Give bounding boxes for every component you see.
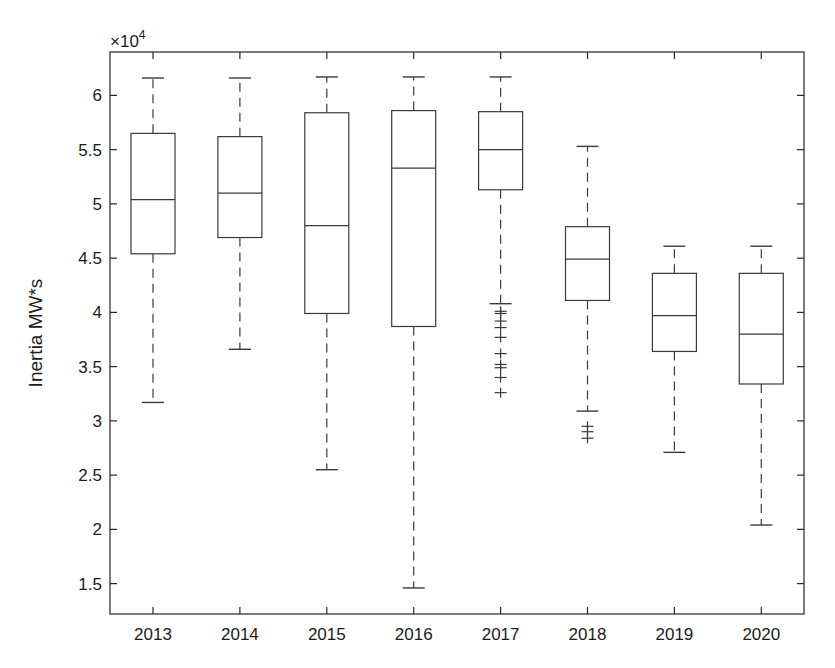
y-tick-label: 3 [93, 412, 102, 431]
box-group-2016 [392, 77, 436, 588]
chart-canvas: 1.522.533.544.555.5620132014201520162017… [0, 0, 835, 668]
box-group-2018 [566, 146, 610, 443]
y-tick-label: 6 [93, 86, 102, 105]
x-tick-label: 2015 [308, 625, 346, 644]
y-tick-label: 5.5 [78, 141, 102, 160]
plot-elements [131, 77, 783, 588]
axes-frame [110, 52, 804, 614]
iqr-box [479, 112, 523, 190]
y-tick-label: 3.5 [78, 358, 102, 377]
y-tick-label: 4.5 [78, 249, 102, 268]
x-tick-label: 2014 [221, 625, 259, 644]
y-axis-exponent: ×104 [110, 28, 146, 51]
iqr-box [131, 133, 175, 253]
y-exponent-base: ×10 [110, 32, 139, 51]
x-tick-label: 2019 [655, 625, 693, 644]
box-group-2017 [479, 77, 523, 398]
box-group-2013 [131, 78, 175, 402]
box-plot-chart: 1.522.533.544.555.5620132014201520162017… [0, 0, 835, 668]
iqr-box [392, 111, 436, 327]
box-group-2015 [305, 77, 349, 470]
y-tick-label: 4 [93, 303, 102, 322]
iqr-box [739, 273, 783, 384]
x-tick-label: 2018 [569, 625, 607, 644]
iqr-box [218, 137, 262, 238]
y-axis-label: Inertia MW*s [25, 279, 46, 388]
y-tick-label: 5 [93, 195, 102, 214]
y-tick-label: 1.5 [78, 575, 102, 594]
x-tick-label: 2017 [482, 625, 520, 644]
x-tick-label: 2020 [742, 625, 780, 644]
y-exponent-power: 4 [139, 28, 146, 42]
y-tick-label: 2.5 [78, 466, 102, 485]
box-group-2020 [739, 246, 783, 525]
x-tick-label: 2013 [134, 625, 172, 644]
iqr-box [652, 273, 696, 351]
x-tick-label: 2016 [395, 625, 433, 644]
y-tick-label: 2 [93, 520, 102, 539]
box-group-2014 [218, 78, 262, 349]
box-group-2019 [652, 246, 696, 452]
iqr-box [305, 113, 349, 314]
iqr-box [566, 227, 610, 301]
axes: 1.522.533.544.555.5620132014201520162017… [78, 52, 804, 644]
